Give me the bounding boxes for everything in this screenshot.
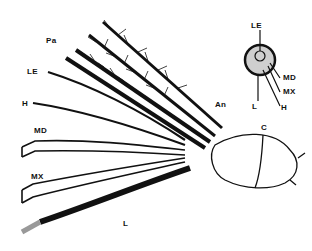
inset-label-mx: MX	[283, 88, 296, 96]
label-maxillae: MX	[31, 173, 44, 181]
label-labium: L	[123, 220, 128, 228]
mandibles	[22, 141, 185, 157]
label-clypeus: C	[261, 124, 267, 132]
label-antenna: An	[215, 101, 226, 109]
head-capsule	[212, 134, 305, 188]
inset-label-h: H	[281, 104, 287, 112]
inset-label-l: L	[252, 103, 257, 111]
palps	[66, 20, 222, 148]
labrum-epipharynx	[48, 72, 185, 140]
cross-section-inset	[245, 30, 280, 106]
label-hypopharynx: H	[22, 100, 28, 108]
inset-label-md: MD	[283, 74, 296, 82]
label-palps: Pa	[46, 37, 56, 45]
label-mandibles: MD	[34, 127, 47, 135]
label-labrum-epipharynx: LE	[27, 68, 38, 76]
labium	[40, 168, 190, 222]
mouthparts-diagram: Pa LE H MD MX An C L LE MD MX L H	[0, 0, 312, 251]
inset-label-le: LE	[251, 22, 262, 30]
